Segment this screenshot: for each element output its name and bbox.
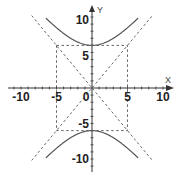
- y-axis-arrow-icon: [89, 5, 95, 12]
- axes: [8, 5, 174, 172]
- x-tick-label: 5: [124, 90, 131, 104]
- y-tick-label: 5: [82, 49, 89, 63]
- y-tick-label: 10: [76, 13, 90, 27]
- x-tick-label: -10: [12, 90, 30, 104]
- x-tick-label: 0: [83, 90, 90, 104]
- x-tick-label: -5: [51, 90, 62, 104]
- y-tick-label: -5: [78, 117, 89, 131]
- x-tick-label: 10: [156, 90, 170, 104]
- y-tick-label: -10: [72, 152, 90, 166]
- x-axis-label: X: [165, 75, 171, 85]
- hyperbola-diagram: -10-50510-10-5510XY: [0, 0, 178, 177]
- y-axis-label: Y: [97, 5, 103, 15]
